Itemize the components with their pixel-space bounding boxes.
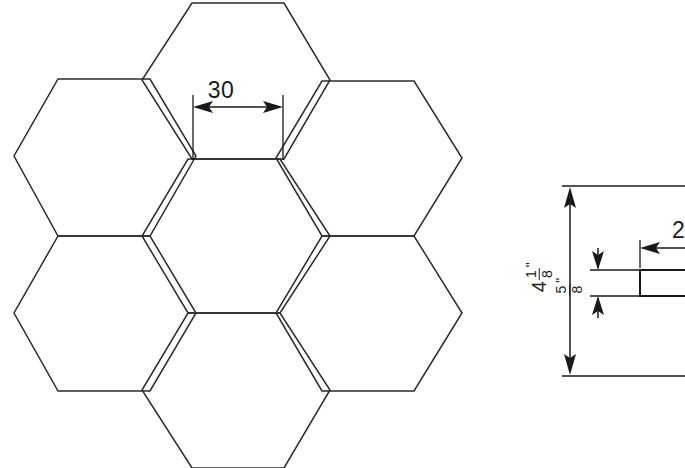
dimension-30-label: 30: [208, 77, 235, 103]
thickness-numerator: 5: [554, 284, 569, 296]
overall-height-whole: 4: [529, 281, 549, 292]
technical-drawing-canvas: 2 30 4 1 8 " 5 8 ": [0, 0, 685, 468]
partial-dimension-label: 2: [672, 217, 685, 243]
hexagon-upper-right: [276, 81, 462, 236]
hexagon-top: [142, 3, 330, 159]
overall-height-label: 4 1 8 ": [524, 262, 554, 292]
overall-height-numerator: 1: [524, 268, 539, 280]
thickness-fraction: 5 8: [554, 284, 584, 296]
thickness-unit: ": [554, 278, 568, 283]
overall-height-fraction: 1 8: [524, 268, 554, 280]
hexagon-upper-left: [14, 79, 196, 236]
hexagon-bottom: [142, 313, 330, 468]
hexagon-cluster: [14, 3, 462, 468]
thickness-denominator: 8: [569, 284, 585, 296]
profile-bar-outline: [640, 270, 685, 296]
dimension-30: [193, 95, 283, 160]
hexagon-center: [142, 159, 330, 313]
overall-height-unit: ": [524, 262, 538, 267]
drawing-svg: 2 30: [0, 0, 685, 468]
hexagon-lower-right: [276, 236, 462, 391]
hexagon-lower-left: [14, 236, 196, 391]
overall-height-denominator: 8: [538, 268, 554, 280]
thickness-label: 5 8 ": [554, 278, 584, 297]
